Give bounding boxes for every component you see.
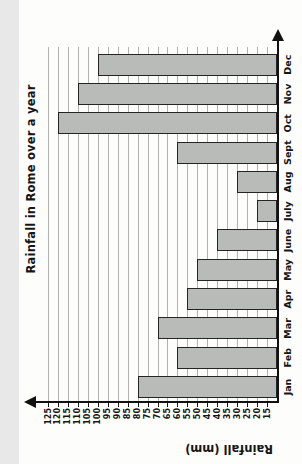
bar-apr [187, 288, 277, 310]
y-tick-label: 15 [262, 408, 271, 438]
bar-sept [177, 142, 277, 164]
month-label: Feb [281, 343, 294, 373]
gridline [67, 47, 68, 402]
bar-nov [77, 83, 276, 105]
y-tick-label: 60 [172, 408, 181, 438]
month-label: June [281, 226, 294, 256]
gridline [57, 47, 58, 402]
month-label: Sept [281, 138, 294, 168]
y-tick-label: 40 [212, 408, 221, 438]
month-label: Jan [281, 372, 294, 402]
y-tick-label: 55 [182, 408, 191, 438]
bar-july [257, 200, 277, 222]
y-tick-label: 85 [123, 408, 132, 438]
y-tick-label: 80 [133, 408, 142, 438]
y-tick-label: 115 [63, 408, 72, 438]
chart-title: Rainfall in Rome over a year [24, 54, 38, 304]
month-label: Oct [281, 108, 294, 138]
rotated-chart-container: Rainfall in Rome over a year Rainfall (m… [19, 0, 302, 464]
y-tick-label: 20 [252, 408, 261, 438]
y-tick-label: 70 [153, 408, 162, 438]
bar-oct [57, 112, 276, 134]
month-label: Apr [281, 284, 294, 314]
y-tick-label: 95 [103, 408, 112, 438]
bar-may [197, 259, 277, 281]
y-tick-label: 35 [222, 408, 231, 438]
month-label: Nov [281, 79, 294, 109]
month-label: Dec [281, 50, 294, 80]
y-tick-label: 45 [202, 408, 211, 438]
bar-feb [177, 347, 277, 369]
y-tick-label: 25 [242, 408, 251, 438]
y-tick-label: 75 [143, 408, 152, 438]
y-axis-arrow-icon [24, 396, 36, 408]
bar-jan [137, 376, 276, 398]
y-tick-label: 90 [113, 408, 122, 438]
bar-chart: Rainfall in Rome over a year Rainfall (m… [19, 0, 302, 464]
x-axis-arrow-icon [272, 29, 284, 41]
y-axis-label: Rainfall (mm) [167, 440, 291, 456]
scanned-chart-page: Rainfall in Rome over a year Rainfall (m… [19, 0, 302, 464]
month-label: Aug [281, 167, 294, 197]
month-label: July [281, 196, 294, 226]
y-tick-label: 65 [162, 408, 171, 438]
y-tick-label: 105 [83, 408, 92, 438]
y-tick-label: 120 [53, 408, 62, 438]
month-label: Mar [281, 313, 294, 343]
y-tick-label: 125 [43, 408, 52, 438]
y-tick-label: 30 [232, 408, 241, 438]
bar-mar [157, 317, 276, 339]
y-axis-line [33, 401, 279, 403]
bar-aug [237, 171, 277, 193]
y-tick-label: 110 [73, 408, 82, 438]
gridline [48, 47, 49, 402]
x-axis-line [277, 39, 279, 403]
bar-june [217, 230, 277, 252]
bar-dec [97, 54, 276, 76]
y-tick-label: 50 [192, 408, 201, 438]
y-tick-label: 100 [93, 408, 102, 438]
month-label: May [281, 255, 294, 285]
